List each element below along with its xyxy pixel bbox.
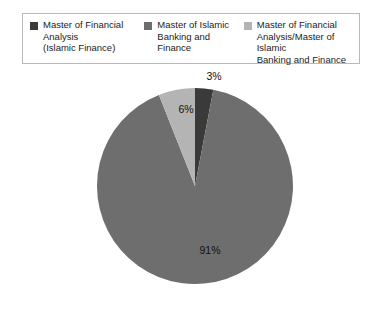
- legend-swatch-medium-gray-icon: [144, 22, 152, 30]
- legend-item-label: Master of Financial Analysis/Master of I…: [257, 19, 359, 65]
- pie-plot-area: 3% 91% 6%: [0, 66, 384, 314]
- chart-figure: Master of Financial Analysis (Islamic Fi…: [0, 0, 384, 314]
- chart-legend: Master of Financial Analysis (Islamic Fi…: [22, 13, 360, 64]
- legend-item-master-of-financial-analysis-islamic-finance[interactable]: Master of Financial Analysis (Islamic Fi…: [23, 19, 142, 54]
- legend-swatch-dark-icon: [30, 22, 38, 30]
- pie-slice-group: [97, 88, 293, 284]
- legend-swatch-light-gray-icon: [244, 22, 252, 30]
- pie-slice-label-91: 91%: [199, 244, 220, 256]
- legend-item-label: Master of Financial Analysis (Islamic Fi…: [43, 19, 123, 54]
- pie-slice-label-6: 6%: [178, 103, 193, 115]
- legend-item-combined-degree[interactable]: Master of Financial Analysis/Master of I…: [242, 19, 359, 65]
- legend-item-master-of-islamic-banking-and-finance[interactable]: Master of Islamic Banking and Finance: [142, 19, 241, 54]
- pie-slice-label-3: 3%: [206, 70, 221, 82]
- legend-item-label: Master of Islamic Banking and Finance: [157, 19, 229, 54]
